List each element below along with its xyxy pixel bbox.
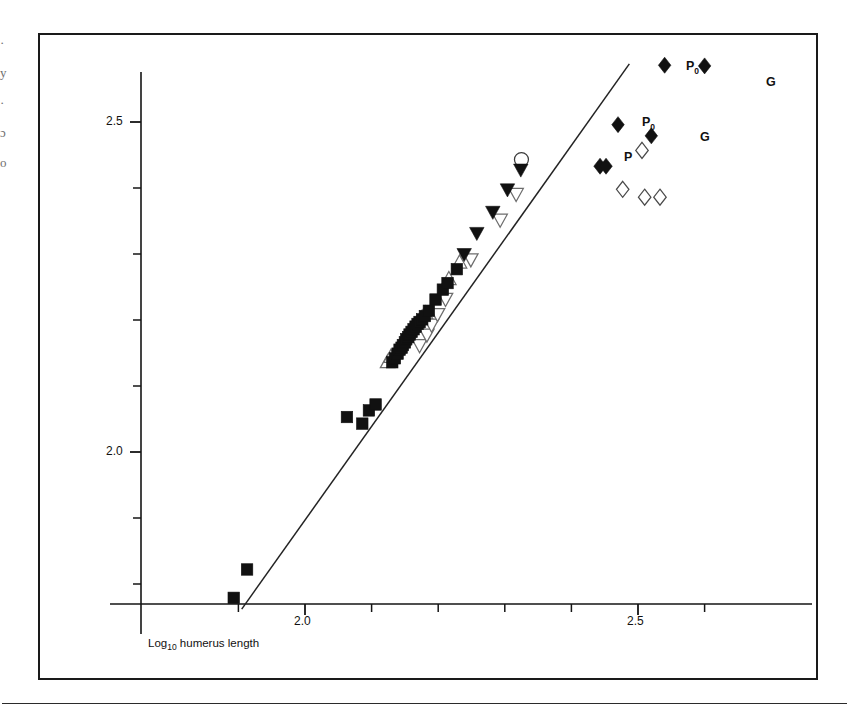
- point-annotation-p0: P0: [686, 60, 699, 75]
- data-point-filled-diamond: [658, 57, 670, 73]
- data-point-open-diamond: [638, 189, 650, 205]
- data-point-filled-down-triangle: [470, 227, 484, 240]
- point-annotation-g: G: [766, 76, 776, 89]
- data-point-filled-square: [241, 564, 253, 576]
- data-point-filled-diamond: [698, 58, 710, 74]
- data-point-filled-down-triangle: [514, 164, 528, 177]
- data-point-filled-square: [228, 592, 240, 604]
- x-tick-label-2-0: 2.0: [294, 614, 311, 628]
- point-annotation-p: P: [624, 151, 632, 164]
- data-point-open-diamond: [636, 142, 648, 158]
- scatter-plot-canvas: [0, 0, 849, 718]
- annotation-base: P: [624, 150, 632, 164]
- data-point-filled-square: [442, 277, 454, 289]
- data-points-group: [228, 57, 711, 603]
- annotation-base: G: [700, 130, 710, 144]
- point-annotation-p0: P0: [642, 116, 655, 131]
- data-point-filled-square: [451, 263, 463, 275]
- y-tick-label-2-5: 2.5: [106, 114, 123, 128]
- x-axis-label: Log10 humerus length: [148, 637, 259, 652]
- x-axis-label-prefix: Log: [148, 637, 167, 649]
- data-point-filled-square: [423, 305, 435, 317]
- x-axis-label-sub: 10: [167, 642, 176, 652]
- x-axis-label-suffix: humerus length: [177, 637, 259, 649]
- axes-group: [110, 72, 812, 634]
- annotation-base: G: [766, 75, 776, 89]
- data-point-open-diamond: [654, 189, 666, 205]
- data-point-filled-square: [341, 411, 353, 423]
- x-tick-label-2-5: 2.5: [627, 614, 644, 628]
- data-point-open-down-triangle: [493, 214, 507, 227]
- data-point-filled-diamond: [612, 117, 624, 133]
- data-point-filled-square: [370, 399, 382, 411]
- figure-root: · y · ɔ o Log10 radius length Log10 hume…: [0, 0, 849, 718]
- data-point-open-diamond: [616, 181, 628, 197]
- annotation-subscript: 0: [694, 66, 699, 76]
- regression-line: [242, 64, 630, 609]
- annotation-subscript: 0: [650, 122, 655, 132]
- regression-line-group: [242, 64, 630, 609]
- y-tick-label-2-0: 2.0: [106, 444, 123, 458]
- point-annotation-g: G: [700, 131, 710, 144]
- data-point-filled-square: [357, 418, 369, 430]
